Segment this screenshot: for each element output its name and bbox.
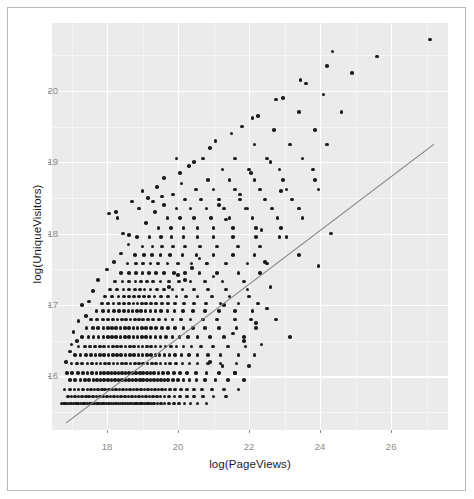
data-point [212, 226, 216, 230]
data-point [134, 280, 138, 284]
data-point [215, 271, 219, 275]
data-point [176, 262, 180, 266]
data-point [127, 326, 131, 330]
data-point [208, 360, 212, 364]
data-point [128, 345, 132, 349]
data-point [156, 262, 160, 266]
data-point [83, 378, 87, 382]
data-point [149, 309, 153, 313]
data-point [136, 335, 140, 339]
data-point [159, 335, 163, 339]
data-point [131, 309, 135, 313]
data-point [146, 318, 150, 322]
data-point [238, 198, 242, 202]
data-point [159, 253, 163, 257]
data-point [203, 378, 207, 382]
data-point [198, 257, 202, 261]
data-point [144, 335, 148, 339]
data-point [147, 271, 151, 275]
data-point [159, 309, 163, 313]
data-point [206, 353, 210, 357]
data-point [171, 335, 175, 339]
data-point [212, 275, 216, 279]
data-point [73, 388, 77, 392]
data-point [168, 253, 172, 257]
data-point [155, 185, 159, 189]
data-point [196, 353, 200, 357]
data-point [127, 271, 131, 275]
data-point [162, 203, 166, 207]
data-point [163, 402, 167, 406]
data-point [231, 253, 235, 257]
data-point [124, 318, 128, 322]
data-point [279, 226, 283, 230]
data-point [149, 335, 153, 339]
x-tick-label: 22 [234, 441, 264, 452]
data-point [164, 345, 168, 349]
data-point [100, 302, 104, 306]
data-point [183, 198, 187, 202]
data-point [95, 362, 99, 366]
data-point [181, 309, 185, 313]
data-point [179, 318, 183, 322]
data-point [68, 388, 72, 392]
data-point [90, 362, 94, 366]
data-point [141, 262, 145, 266]
data-point [375, 55, 379, 59]
data-point [122, 309, 126, 313]
data-point [70, 371, 74, 375]
data-point [164, 335, 168, 339]
data-point [119, 271, 123, 275]
data-point [317, 264, 321, 268]
data-point [173, 353, 177, 357]
data-point [157, 371, 161, 375]
data-point [167, 285, 171, 289]
grid-major-vertical [391, 23, 392, 430]
data-point [249, 318, 253, 322]
data-point [166, 326, 170, 330]
data-point [86, 371, 90, 375]
data-point [196, 335, 200, 339]
data-point [127, 335, 131, 339]
data-point [231, 226, 235, 230]
data-point [217, 326, 221, 330]
data-point [329, 232, 333, 236]
data-point [130, 200, 134, 204]
data-point [331, 50, 335, 54]
data-point [177, 402, 181, 406]
data-point [247, 295, 251, 299]
data-point [189, 402, 193, 406]
data-point [177, 280, 181, 284]
data-point [226, 345, 230, 349]
data-point [217, 198, 221, 202]
data-point [254, 226, 258, 230]
data-point [230, 132, 234, 136]
data-point [153, 295, 157, 299]
data-point [253, 143, 257, 147]
data-point [187, 353, 191, 357]
data-point [211, 345, 215, 349]
data-point [127, 280, 131, 284]
data-point [168, 353, 172, 357]
data-point [203, 309, 207, 313]
data-point [84, 314, 88, 318]
y-tick-mark [48, 376, 51, 377]
data-point [153, 210, 157, 214]
data-point [123, 335, 127, 339]
data-point [114, 210, 118, 214]
data-point [149, 288, 153, 292]
data-point [114, 335, 118, 339]
data-point [204, 302, 208, 306]
data-point [91, 326, 95, 330]
data-point [80, 303, 84, 307]
data-point [182, 235, 186, 239]
data-point [171, 245, 175, 249]
data-point [274, 318, 278, 322]
data-point [228, 178, 232, 182]
data-point [137, 295, 141, 299]
data-point [192, 288, 196, 292]
data-point [192, 302, 196, 306]
data-point [166, 378, 170, 382]
data-point [95, 371, 99, 375]
data-point [210, 388, 214, 392]
